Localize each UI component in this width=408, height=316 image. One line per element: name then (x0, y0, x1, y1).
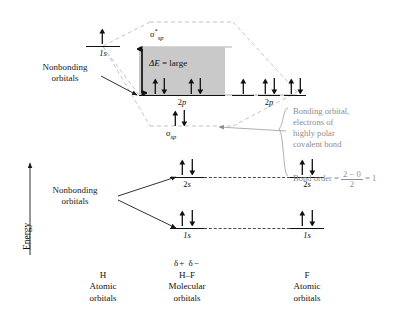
delta-e-rest: = large (160, 58, 187, 68)
h-line3: orbitals (60, 293, 146, 305)
mo-diagram-figure: ΔE = large 1s σ*sp 22pp (0, 0, 408, 316)
nonbonding-top-line2: orbitals (22, 73, 108, 84)
h-1s-label-text: 1s (99, 48, 107, 58)
nonbonding-bottom-line1: Nonbonding (32, 185, 118, 196)
nonbonding-orbitals-top-label: Nonbonding orbitals (22, 62, 108, 84)
energy-axis-label: Energy (22, 223, 32, 250)
hf-charge: δ+ δ− (144, 258, 230, 270)
f-2p-label: 2p (258, 97, 280, 107)
sigma-star-sp-label: σ*sp (150, 27, 200, 41)
f-1s-level (290, 228, 324, 229)
mo-2p-level (139, 95, 225, 96)
bonding-note-line3: highly polar (293, 128, 405, 139)
leader-nonbonding-1s (118, 200, 176, 228)
f-line3: orbitals (264, 293, 350, 305)
sigma-sp-label: σsp (166, 128, 216, 140)
mo-2p-electron-pair2-up (188, 78, 195, 94)
mo-2p-label: 22pp (165, 97, 199, 107)
delta-e-arrow (137, 45, 147, 97)
f-1s-electron-down (309, 210, 316, 226)
hf-species: H–F (144, 270, 230, 282)
f-2p-level-b (258, 95, 280, 96)
bond-order-denominator: 2 (341, 180, 363, 189)
f-2p-electron-pair2-down (297, 78, 304, 94)
f-species: F (264, 270, 350, 282)
h-1s-electron-up (99, 28, 106, 44)
nonbonding-bottom-line2: orbitals (32, 196, 118, 207)
delta-e-symbol: ΔE (149, 58, 160, 68)
correlation-2s-dash (204, 177, 290, 178)
bonding-note-line1: Bonding orbital, (293, 106, 405, 117)
leader-nonbonding-2s (118, 177, 176, 196)
f-2p-electron-pair1-up (262, 78, 269, 94)
bonding-orbital-note: Bonding orbital, electrons of highly pol… (293, 106, 405, 150)
right-brace (279, 108, 288, 176)
mo-1s-electron-down (189, 210, 196, 226)
nonbonding-orbitals-bottom-label: Nonbonding orbitals (32, 185, 118, 207)
sigma-sp-electron-up (172, 110, 179, 126)
correlation-1s-dash (204, 228, 290, 229)
f-charge (264, 258, 350, 270)
hf-line3: orbitals (144, 293, 230, 305)
bond-order-label: Bond order = (293, 173, 341, 183)
delta-e-label: ΔE = large (149, 58, 187, 68)
column-header-hf-molecular: δ+ δ− H–F Molecular orbitals (144, 258, 230, 304)
mo-2s-electron-down (189, 159, 196, 175)
mo-2p-electron-pair2-down (197, 78, 204, 94)
bond-order-fraction: 2 − 02 (341, 170, 363, 189)
mo-2s-level (170, 177, 204, 178)
bonding-note-line4: covalent bond (293, 139, 405, 150)
h-1s-level (86, 46, 120, 47)
column-header-h-atomic: H Atomic orbitals (60, 258, 146, 304)
f-1s-electron-up (299, 210, 306, 226)
sigma-sp-electron-down (181, 110, 188, 126)
column-header-f-atomic: F Atomic orbitals (264, 258, 350, 304)
mo-1s-label: 1s (170, 230, 204, 240)
f-2p-level (232, 95, 254, 96)
f-2p-electron-pair1-down (271, 78, 278, 94)
f-1s-label: 1s (290, 230, 324, 240)
nonbonding-top-line1: Nonbonding (22, 62, 108, 73)
mo-2p-electron-pair1-up (152, 78, 159, 94)
bonding-note-line2: electrons of (293, 117, 405, 128)
sigma-sp-sub: sp (171, 133, 177, 140)
h-line2: Atomic (60, 281, 146, 293)
mo-2s-electron-up (179, 159, 186, 175)
mo-2p-electron-pair1-down (161, 78, 168, 94)
bond-order-result: = 1 (363, 173, 376, 183)
mo-1s-level (170, 228, 204, 229)
h-species: H (60, 270, 146, 282)
h-charge (60, 258, 146, 270)
mo-2s-label: 2s (170, 179, 204, 189)
hf-line2: Molecular (144, 281, 230, 293)
energy-axis-label-text: Energy (22, 223, 32, 250)
bond-order-note: Bond order = 2 − 02 = 1 (293, 170, 407, 189)
sigma-star-sub: sp (158, 34, 164, 41)
h-1s-label: 1s (86, 48, 120, 58)
f-2p-electron-single-up (240, 78, 247, 94)
leader-bonding-note (219, 127, 286, 131)
f-2p-electron-pair2-up (288, 78, 295, 94)
mo-1s-electron-up (179, 210, 186, 226)
f-2p-level-c (284, 95, 306, 96)
f-line2: Atomic (264, 281, 350, 293)
